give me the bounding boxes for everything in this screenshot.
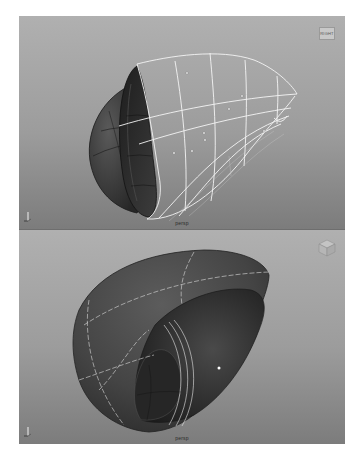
camera-label: persp bbox=[19, 435, 345, 441]
viewport-top-perspective[interactable]: RIGHT persp bbox=[19, 16, 345, 229]
view-cube-icon[interactable]: RIGHT bbox=[317, 24, 337, 44]
viewcube-face-label[interactable]: RIGHT bbox=[319, 27, 335, 40]
view-cube-icon[interactable] bbox=[317, 238, 337, 258]
nurbs-model-wireframe[interactable] bbox=[19, 16, 345, 229]
nurbs-model-shaded[interactable] bbox=[19, 230, 345, 444]
camera-label: persp bbox=[19, 220, 345, 226]
viewport-bottom-perspective[interactable]: persp bbox=[19, 229, 345, 444]
